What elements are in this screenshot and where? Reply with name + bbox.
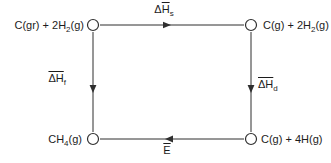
edge-label-delta-h-formation: ΔHf — [48, 72, 66, 84]
edge-subscript: d — [273, 84, 277, 93]
node-text: CH — [48, 133, 64, 145]
node-label-c-graphite-2h2: C(gr) + 2H2(g) — [14, 19, 84, 31]
edge-subscript: f — [64, 78, 66, 87]
hess-cycle-diagram: C(gr) + 2H2(g) C(g) + 2H2(g) CH4(g) C(g)… — [0, 0, 331, 163]
node-label-ch4: CH4(g) — [48, 133, 82, 145]
left-arrowhead-down-icon — [90, 85, 97, 93]
node-text: (g) — [315, 19, 328, 31]
bottom-arrowhead-left-icon — [165, 136, 173, 143]
node-label-c-4h: C(g) + 4H(g) — [261, 133, 322, 145]
edge-label-bond-energy: E — [157, 144, 177, 156]
node-circle-top-right — [246, 20, 257, 31]
node-circle-bottom-left — [88, 134, 99, 145]
node-circle-bottom-right — [246, 134, 257, 145]
node-circle-top-left — [88, 20, 99, 31]
node-text: C(g) + 2H — [263, 19, 311, 31]
edge-text: Δ — [154, 3, 161, 15]
node-label-c-gas-2h2: C(g) + 2H2(g) — [263, 19, 329, 31]
node-text: C(gr) + 2H — [14, 19, 66, 31]
node-text: C(g) + 4H(g) — [261, 133, 322, 145]
node-text: (g) — [71, 19, 84, 31]
edge-label-delta-h-dissociation: ΔHd — [258, 78, 278, 90]
edge-text-overlined: H — [162, 3, 170, 15]
right-arrowhead-down-icon — [248, 85, 255, 93]
edge-text-overlined: ΔH — [48, 72, 63, 84]
edge-subscript: s — [170, 9, 174, 18]
node-text: (g) — [69, 133, 82, 145]
top-arrowhead-right-icon — [163, 22, 171, 28]
edge-text-overlined: ΔH — [258, 78, 273, 90]
edge-label-delta-h-sublimation: ΔHs — [148, 3, 180, 15]
edge-text-overlined: E — [163, 144, 170, 156]
